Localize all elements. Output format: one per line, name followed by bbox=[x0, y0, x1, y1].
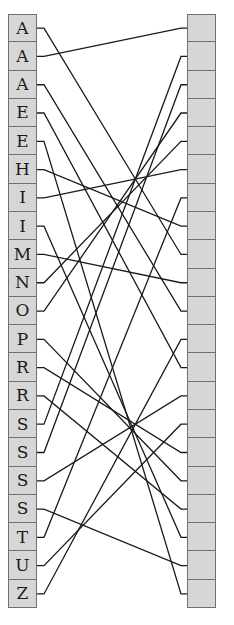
connection-line bbox=[37, 28, 187, 56]
connection-line bbox=[37, 198, 187, 537]
connection-lines bbox=[0, 0, 234, 625]
matching-diagram: AAAEEHIIMNOPRRSSSSTUZ bbox=[0, 0, 234, 625]
connection-line bbox=[37, 396, 187, 509]
connection-line bbox=[37, 170, 187, 227]
